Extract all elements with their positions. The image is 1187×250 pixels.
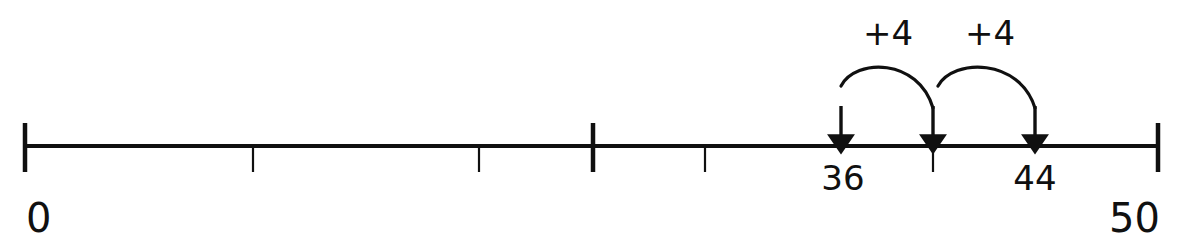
hop-2-arc	[938, 67, 1035, 108]
endpoint-label-50: 50	[1109, 195, 1160, 241]
hop-2-label: +4	[965, 13, 1015, 53]
hop-1-arc	[841, 67, 933, 108]
hop-label-group: +4+4	[863, 13, 1015, 53]
hop-arc-group	[841, 67, 1035, 108]
endpoint-label-group: 050	[26, 195, 1160, 241]
marker-44-label: 44	[1013, 158, 1056, 198]
endpoint-label-0: 0	[26, 195, 51, 241]
number-line-diagram: +4+4 3644 050	[0, 0, 1187, 250]
number-line-svg: +4+4 3644 050	[0, 0, 1187, 250]
marker-arrow-group	[841, 106, 1035, 144]
hop-1-label: +4	[863, 13, 913, 53]
marker-label-group: 3644	[821, 158, 1056, 198]
marker-36-label: 36	[821, 158, 864, 198]
